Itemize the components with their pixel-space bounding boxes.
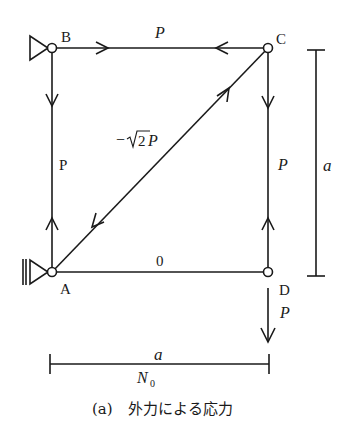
joint-c: [264, 44, 273, 53]
force-label-bc: P: [154, 24, 165, 41]
support-a-icon: [30, 260, 48, 284]
node-label-c: C: [276, 31, 286, 47]
node-label-a: A: [60, 281, 71, 297]
force-label-ac: − 2 P: [116, 131, 158, 149]
force-label-cd: P: [277, 156, 288, 173]
dim-width-sublabel: N 0: [136, 369, 155, 389]
dim-width-label: a: [154, 345, 163, 364]
load-label-d: P: [279, 304, 290, 321]
node-label-d: D: [279, 282, 290, 298]
node-label-b: B: [61, 29, 71, 45]
force-label-ac-radicand: 2: [138, 133, 146, 149]
force-label-ac-symbol: P: [147, 132, 158, 149]
truss-diagram: B C A D P P P 0 − 2 P P a a N 0 (a) 外力によ…: [0, 0, 354, 432]
joint-d: [264, 268, 273, 277]
member-ac-diagonal: [52, 48, 268, 272]
force-label-ad: 0: [156, 253, 164, 269]
force-label-ac-minus: −: [116, 131, 125, 148]
joint-b: [48, 44, 57, 53]
dim-width-sublabel-subscript: 0: [150, 378, 155, 389]
dim-height-label: a: [323, 156, 332, 175]
joint-a: [48, 268, 57, 277]
figure-caption: (a) 外力による応力: [92, 400, 233, 418]
dim-width-sublabel-n: N: [136, 369, 149, 386]
support-b-icon: [30, 36, 48, 60]
force-label-ab: P: [59, 157, 67, 173]
